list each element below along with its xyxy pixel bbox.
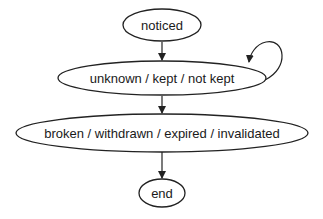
node-noticed: noticed [123,9,201,41]
node-terminal: broken / withdrawn / expired / invalidat… [16,114,308,152]
node-terminal-label: broken / withdrawn / expired / invalidat… [44,126,280,141]
node-end-label: end [151,186,173,201]
node-active: unknown / kept / not kept [58,61,266,95]
node-noticed-label: noticed [141,18,183,33]
state-diagram: noticed unknown / kept / not kept broken… [0,0,323,219]
node-active-label: unknown / kept / not kept [90,71,235,86]
node-end: end [139,179,185,207]
